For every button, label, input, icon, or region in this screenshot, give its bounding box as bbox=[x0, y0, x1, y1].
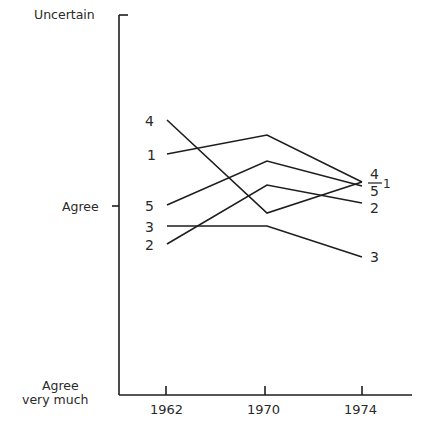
end-label-2: 2 bbox=[370, 200, 379, 216]
end-label-5: 5 bbox=[370, 183, 379, 199]
start-label-3: 3 bbox=[145, 219, 154, 235]
end-label-3: 3 bbox=[370, 249, 379, 265]
end-label-1: 1 bbox=[383, 177, 391, 191]
series-line-1 bbox=[167, 135, 362, 182]
series-lines bbox=[167, 120, 362, 257]
x-label-1970: 1970 bbox=[247, 402, 280, 417]
y-label-agree: Agree bbox=[62, 199, 99, 214]
start-label-2: 2 bbox=[145, 237, 154, 253]
y-label-uncertain: Uncertain bbox=[34, 7, 95, 22]
series-line-3 bbox=[167, 226, 362, 257]
axes bbox=[112, 15, 412, 395]
x-label-1962: 1962 bbox=[150, 402, 183, 417]
start-label-5: 5 bbox=[145, 198, 154, 214]
series-line-4 bbox=[167, 120, 362, 213]
start-label-4: 4 bbox=[145, 113, 154, 129]
series-line-2 bbox=[167, 185, 362, 244]
end-label-4: 4 bbox=[370, 166, 379, 182]
line-chart: Uncertain Agree Agree very much 1962 197… bbox=[0, 0, 440, 440]
x-label-1974: 1974 bbox=[344, 402, 377, 417]
y-label-agree-very-much-1: Agree bbox=[42, 378, 79, 393]
y-label-agree-very-much-2: very much bbox=[22, 392, 89, 407]
start-label-1: 1 bbox=[147, 147, 156, 163]
